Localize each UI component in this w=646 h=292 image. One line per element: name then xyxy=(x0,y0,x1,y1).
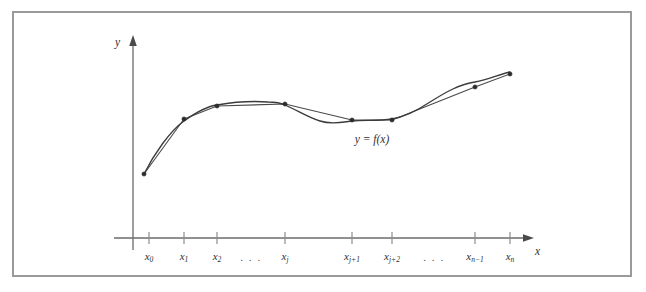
tick-label-xn1: xn−1 xyxy=(466,251,483,262)
tick-ellipsis-2: . . . xyxy=(423,252,445,263)
sample-point-xn xyxy=(508,72,512,76)
sample-point-xj xyxy=(283,102,287,106)
sample-point-xj+2 xyxy=(390,118,394,122)
tick-label-x0: x0 xyxy=(145,251,154,262)
figure-frame: y x y = f(x) x0x1x2xjxj+1xj+2xn−1xn. . .… xyxy=(12,11,632,277)
tick-label-xj1: xj+1 xyxy=(344,251,360,262)
tick-label-xn: xn xyxy=(506,251,515,262)
tick-label-xj: xj xyxy=(282,251,289,262)
y-axis-arrow-icon xyxy=(129,35,137,46)
plot-canvas xyxy=(14,13,630,275)
x-axis-label: x xyxy=(535,246,540,258)
figure-container: y x y = f(x) x0x1x2xjxj+1xj+2xn−1xn. . .… xyxy=(0,0,646,292)
tick-label-x1: x1 xyxy=(180,251,189,262)
sample-point-xj+1 xyxy=(350,118,354,122)
tick-label-xj2: xj+2 xyxy=(384,251,400,262)
chord-polyline xyxy=(144,74,510,174)
tick-ellipsis-1: . . . xyxy=(240,252,262,263)
x-axis-arrow-icon xyxy=(523,234,534,242)
sample-point-xn-1 xyxy=(473,85,477,89)
tick-label-x2: x2 xyxy=(213,251,222,262)
function-curve xyxy=(144,72,510,174)
sample-point-x0 xyxy=(142,172,146,176)
sample-point-x2 xyxy=(215,104,219,108)
y-axis-label: y xyxy=(115,37,120,49)
sample-point-x1 xyxy=(182,117,186,121)
curve-equation-label: y = f(x) xyxy=(355,134,390,146)
